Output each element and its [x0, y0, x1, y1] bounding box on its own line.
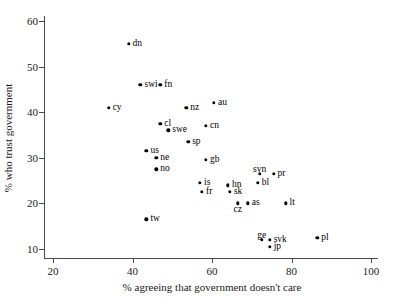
y-tick-label: 40 [27, 107, 38, 118]
data-point [155, 156, 158, 159]
data-point-label: bl [262, 178, 269, 188]
data-point-label: ne [160, 153, 169, 163]
data-point [186, 140, 189, 143]
x-axis-title: % agreeing that government doesn't care [123, 281, 302, 293]
y-tick [39, 249, 44, 250]
x-tick-label: 100 [363, 266, 380, 277]
data-point-label: no [160, 164, 170, 174]
y-tick [39, 67, 44, 68]
x-tick [371, 258, 372, 263]
data-point-label: nz [190, 103, 199, 113]
x-tick [53, 258, 54, 263]
x-tick [212, 258, 213, 263]
data-point-label: cl [164, 119, 171, 129]
data-point-label: tw [150, 215, 160, 225]
y-tick-label: 20 [27, 198, 38, 209]
data-point [316, 236, 319, 239]
data-point-label: sk [234, 187, 242, 197]
data-point-label: lt [290, 199, 295, 209]
y-tick [39, 158, 44, 159]
data-point-label: fr [206, 187, 212, 197]
y-tick [39, 21, 44, 22]
scatter-plot: 20406080100 102030405060 dnswifncyclsweu… [0, 0, 399, 301]
data-point-label: dn [133, 39, 143, 49]
data-point-label: cz [234, 205, 242, 215]
data-point [204, 124, 207, 127]
data-point-label: us [150, 146, 158, 156]
data-point-label: pr [278, 169, 286, 179]
data-point [159, 122, 162, 125]
data-point [107, 106, 110, 109]
data-point [268, 245, 271, 248]
data-point [284, 202, 287, 205]
y-axis-line [44, 16, 45, 259]
y-tick [39, 203, 44, 204]
data-point-label: swe [172, 126, 187, 136]
data-point [198, 181, 201, 184]
data-point [200, 190, 203, 193]
y-tick-label: 50 [27, 61, 38, 72]
data-point [184, 106, 187, 109]
data-point [167, 129, 170, 132]
data-point-label: pl [321, 233, 328, 243]
data-point [127, 42, 130, 45]
data-point [246, 202, 249, 205]
data-point [212, 101, 215, 104]
data-point [268, 238, 271, 241]
data-point [272, 172, 275, 175]
x-axis-line [44, 258, 378, 259]
data-point-label: ge [257, 231, 266, 241]
data-point [145, 149, 148, 152]
data-point-label: svn [253, 165, 266, 175]
data-point [155, 167, 158, 170]
data-point [145, 218, 148, 221]
data-point [228, 190, 231, 193]
data-point-label: au [218, 98, 227, 108]
data-point-label: swi [144, 80, 157, 90]
data-point-label: cn [210, 121, 219, 131]
y-tick-label: 30 [27, 152, 38, 163]
x-tick-label: 80 [286, 266, 297, 277]
x-tick-label: 60 [207, 266, 218, 277]
data-point [226, 183, 229, 186]
data-point [256, 181, 259, 184]
data-point-label: cy [113, 103, 122, 113]
x-tick [133, 258, 134, 263]
data-point-label: sp [192, 137, 200, 147]
y-tick [39, 112, 44, 113]
data-point-label: jp [274, 242, 281, 252]
x-tick [292, 258, 293, 263]
data-point-label: gb [210, 155, 220, 165]
y-axis-title: % who trust government [2, 84, 14, 192]
data-point-label: as [252, 199, 260, 209]
data-point [139, 83, 142, 86]
data-point [159, 83, 162, 86]
x-tick-label: 20 [48, 266, 59, 277]
data-point-label: fn [164, 80, 172, 90]
data-point [204, 158, 207, 161]
y-tick-label: 60 [27, 16, 38, 27]
x-tick-label: 40 [127, 266, 138, 277]
y-tick-label: 10 [27, 244, 38, 255]
